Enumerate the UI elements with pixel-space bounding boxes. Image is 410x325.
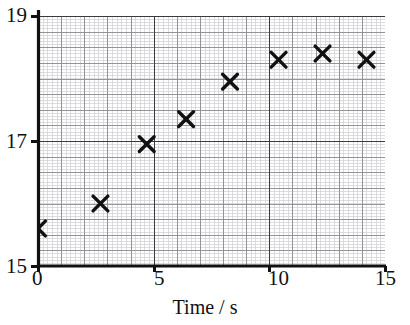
x-axis-tick-10: 10 — [268, 268, 289, 289]
y-axis-tick-19: 19 — [6, 5, 27, 26]
data-point-marker — [139, 137, 154, 152]
x-axis-tick-5: 5 — [154, 268, 165, 289]
y-axis-tick-15: 15 — [6, 256, 27, 277]
scatter-chart: 19 17 15 0 5 10 15 Time / s — [0, 0, 410, 325]
plot-svg — [0, 0, 410, 325]
y-axis-tick-17: 17 — [6, 131, 27, 152]
x-axis-tick-0: 0 — [32, 268, 43, 289]
data-point-marker — [223, 74, 238, 89]
x-axis-title: Time / s — [0, 296, 410, 318]
x-axis-tick-15: 15 — [375, 268, 396, 289]
